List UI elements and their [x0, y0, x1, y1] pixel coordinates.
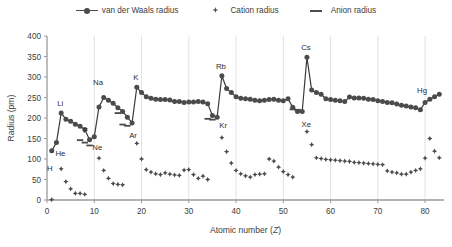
- data-point: [314, 155, 319, 160]
- data-point: [385, 168, 390, 173]
- data-point: [422, 156, 427, 161]
- data-point: [101, 95, 106, 100]
- element-label-kr: Kr: [219, 121, 227, 130]
- data-point: [219, 135, 224, 140]
- data-point: [271, 97, 276, 102]
- data-point: [115, 105, 120, 110]
- data-point: [413, 105, 418, 110]
- x-tick-label: 70: [373, 207, 383, 216]
- element-label-cs: Cs: [301, 43, 311, 52]
- data-point: [92, 134, 97, 139]
- data-point: [153, 97, 158, 102]
- data-point: [111, 101, 116, 106]
- data-point: [267, 97, 272, 102]
- data-point: [106, 98, 111, 103]
- data-point: [63, 179, 68, 184]
- data-point: [389, 170, 394, 175]
- data-point: [200, 174, 205, 179]
- data-point: [167, 172, 172, 177]
- data-point: [290, 174, 295, 179]
- element-label-na: Na: [93, 78, 104, 87]
- data-point: [267, 156, 272, 161]
- data-point: [252, 172, 257, 177]
- data-point: [394, 170, 399, 175]
- data-point: [281, 98, 286, 103]
- y-tick-label: 0: [36, 196, 41, 205]
- data-point: [323, 96, 328, 101]
- data-point: [63, 117, 68, 122]
- data-point: [238, 171, 243, 176]
- data-point: [304, 55, 309, 60]
- data-point: [390, 100, 395, 105]
- data-point: [101, 168, 106, 173]
- data-point: [177, 173, 182, 178]
- data-point: [262, 98, 267, 103]
- data-point: [120, 182, 125, 187]
- data-point: [427, 136, 432, 141]
- data-point: [191, 100, 196, 105]
- data-point: [186, 167, 191, 172]
- data-point: [233, 168, 238, 173]
- data-point: [375, 98, 380, 103]
- data-point: [399, 103, 404, 108]
- data-point: [205, 101, 210, 106]
- data-point: [144, 167, 149, 172]
- data-point: [347, 159, 352, 164]
- data-point: [177, 99, 182, 104]
- y-axis-title: Radius (pm): [6, 94, 16, 141]
- data-point: [276, 98, 281, 103]
- data-point: [77, 191, 82, 196]
- x-tick-label: 60: [326, 207, 336, 216]
- data-point: [49, 148, 54, 153]
- data-point: [352, 95, 357, 100]
- data-point: [285, 172, 290, 177]
- data-point: [257, 172, 262, 177]
- data-point: [224, 86, 229, 91]
- data-point: [125, 115, 130, 120]
- data-point: [111, 181, 116, 186]
- y-tick-label: 400: [27, 32, 41, 41]
- y-tick-label: 200: [27, 114, 41, 123]
- y-tick-label: 100: [27, 155, 41, 164]
- element-label-f: F: [83, 126, 88, 135]
- data-point: [404, 104, 409, 109]
- data-point: [432, 149, 437, 154]
- data-point: [68, 119, 73, 124]
- data-point: [158, 172, 163, 177]
- data-point: [229, 90, 234, 95]
- x-tick-label: 40: [231, 207, 241, 216]
- data-point: [418, 166, 423, 171]
- data-point: [328, 157, 333, 162]
- data-point: [248, 97, 253, 102]
- data-point: [271, 158, 276, 163]
- data-point: [205, 177, 210, 182]
- data-point: [148, 170, 153, 175]
- data-point: [338, 98, 343, 103]
- data-point: [314, 90, 319, 95]
- data-point: [375, 162, 380, 167]
- data-point: [163, 97, 168, 102]
- data-point: [333, 158, 338, 163]
- x-axis-title: Atomic number (Z): [210, 225, 281, 235]
- data-point: [49, 197, 54, 202]
- element-label-ne: Ne: [92, 143, 102, 152]
- data-point: [342, 158, 347, 163]
- x-tick-label: 20: [137, 207, 147, 216]
- y-axis-tick-labels: 050100150200250300350400: [27, 32, 41, 205]
- radius-vs-atomic-number-chart: van der Waals radius Cation radius Anion…: [0, 0, 452, 247]
- element-symbol-annotations: HHeLiFNeNaArKKrRbXeCsHg: [47, 43, 427, 172]
- data-point: [96, 104, 101, 109]
- y-tick-label: 150: [27, 135, 41, 144]
- element-label-rb: Rb: [216, 62, 227, 71]
- data-point: [423, 100, 428, 105]
- data-point: [432, 94, 437, 99]
- data-point: [153, 171, 158, 176]
- data-point: [229, 161, 234, 166]
- data-point: [366, 97, 371, 102]
- data-point: [139, 156, 144, 161]
- data-point: [248, 174, 253, 179]
- data-point: [356, 95, 361, 100]
- element-label-hg: Hg: [417, 86, 427, 95]
- data-point: [262, 171, 267, 176]
- data-point: [347, 95, 352, 100]
